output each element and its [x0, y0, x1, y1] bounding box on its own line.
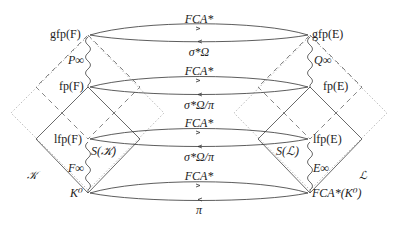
- region-label-L: ℒ: [359, 170, 367, 182]
- region-label-K: 𝒦: [27, 170, 37, 182]
- left-upper-wavy: [86, 37, 91, 88]
- node-FCA-K0: FCA*(K⁰): [312, 187, 361, 199]
- wavy-label-E-inf: E∞: [313, 162, 329, 174]
- region-label-S-K: S(𝒦): [91, 145, 116, 157]
- arrow-pair-4: [90, 182, 308, 201]
- node-lfp-F: lfp(F): [54, 133, 82, 145]
- arrow-label-bottom-2: σ*Ω/π: [184, 99, 214, 111]
- wavy-label-F-inf: F∞: [68, 162, 84, 174]
- left-lower-wavy: [86, 142, 91, 193]
- arrow-label-top-4: FCA*: [185, 170, 214, 182]
- arrow-label-top-3: FCA*: [185, 117, 214, 129]
- region-label-S-L: S(ℒ): [276, 145, 299, 157]
- arrow-label-top-1: FCA*: [185, 13, 214, 25]
- arrow-label-bottom-3: σ*Ω/π: [184, 151, 214, 163]
- node-lfp-E: lfp(E): [313, 133, 342, 145]
- node-fp-F: fp(F): [59, 80, 84, 92]
- right-upper-wavy: [308, 37, 313, 88]
- arrow-pair-1: [90, 24, 308, 43]
- wavy-label-Q-inf: Q∞: [314, 54, 331, 66]
- arrow-pair-2: [90, 77, 308, 97]
- node-K0: K⁰: [70, 187, 83, 199]
- arrow-label-top-2: FCA*: [185, 65, 214, 77]
- node-fp-E: fp(E): [323, 80, 348, 92]
- wavy-label-P-inf: P∞: [68, 54, 84, 66]
- node-gfp-F: gfp(F): [50, 28, 81, 40]
- left-dotted-diamond: [11, 36, 164, 190]
- arrow-label-bottom-1: σ*Ω: [189, 46, 210, 58]
- node-gfp-E: gfp(E): [312, 28, 343, 40]
- arrow-label-bottom-4: π: [196, 204, 202, 216]
